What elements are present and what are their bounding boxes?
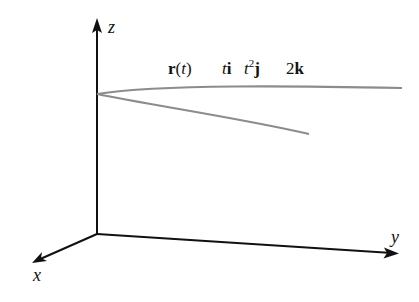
y-axis	[97, 234, 399, 259]
z-axis	[92, 18, 102, 234]
diagram-canvas: z y x r(t) ti t2j 2k	[0, 0, 419, 302]
y-axis-label: y	[389, 227, 399, 247]
z-axis-label: z	[107, 17, 115, 37]
x-axis-label: x	[32, 265, 41, 285]
curve-equation: r(t) ti t2j 2k	[168, 57, 305, 78]
space-curve	[97, 86, 402, 134]
x-axis	[32, 234, 97, 263]
